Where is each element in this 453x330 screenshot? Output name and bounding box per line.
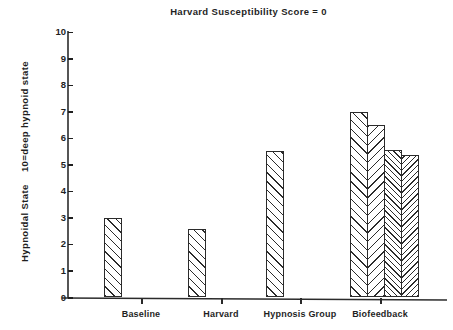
x-axis-line xyxy=(62,298,447,300)
y-tick-mark xyxy=(68,58,73,60)
x-tick-mark xyxy=(221,298,223,304)
x-tick-label-biofeedback: Biofeedback xyxy=(352,309,408,319)
y-tick-mark xyxy=(68,191,73,193)
y-tick-mark xyxy=(68,85,73,87)
y-tick-label: 0 xyxy=(44,293,66,303)
x-tick-label-baseline: Baseline xyxy=(122,309,161,319)
y-tick-mark xyxy=(68,138,73,140)
x-tick-mark xyxy=(300,298,302,304)
y-tick-label: 9 xyxy=(44,54,66,64)
bar xyxy=(266,151,284,297)
y-tick-mark xyxy=(68,32,73,34)
y-tick-label: 1 xyxy=(44,266,66,276)
y-tick-label: 6 xyxy=(44,133,66,143)
bar xyxy=(401,155,419,297)
chart-figure: Harvard Susceptibility Score = 0 Hypnoid… xyxy=(0,0,453,330)
x-tick-mark xyxy=(141,298,143,304)
bar xyxy=(188,229,206,297)
y-tick-label: 7 xyxy=(44,107,66,117)
x-tick-label-hypnosis-group: Hypnosis Group xyxy=(264,309,337,319)
y-tick-label: 5 xyxy=(44,160,66,170)
x-tick-mark xyxy=(380,298,382,304)
bar xyxy=(367,125,385,297)
bar xyxy=(350,112,368,298)
y-tick-label: 8 xyxy=(44,80,66,90)
x-tick-label-harvard: Harvard xyxy=(203,309,238,319)
y-tick-mark xyxy=(68,217,73,219)
bar xyxy=(384,150,402,297)
y-tick-mark xyxy=(68,164,73,166)
y-tick-mark xyxy=(68,297,73,299)
y-tick-label: 3 xyxy=(44,213,66,223)
bar xyxy=(104,218,122,298)
y-tick-mark xyxy=(68,270,73,272)
y-tick-mark xyxy=(68,244,73,246)
y-tick-label: 2 xyxy=(44,239,66,249)
y-tick-label: 4 xyxy=(44,186,66,196)
y-tick-label: 10 xyxy=(44,27,66,37)
y-tick-mark xyxy=(68,111,73,113)
